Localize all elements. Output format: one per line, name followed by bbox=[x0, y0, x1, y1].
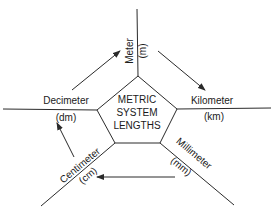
center-title-line-1: METRIC bbox=[118, 94, 156, 105]
spoke-centimeter bbox=[41, 143, 115, 206]
spoke-decimeter bbox=[3, 109, 97, 110]
arrow-meter-to-kilometer bbox=[158, 51, 205, 90]
arrow-centimeter-to-decimeter bbox=[57, 123, 74, 157]
label-meter-abbr: (m) bbox=[137, 44, 148, 59]
label-millimeter-abbr: (mm) bbox=[169, 155, 194, 178]
label-decimeter-abbr: (dm) bbox=[56, 112, 77, 123]
metric-system-diagram: METRIC SYSTEM LENGTHS Meter (m) Kilomete… bbox=[0, 0, 271, 214]
label-kilometer-abbr: (km) bbox=[204, 111, 224, 122]
label-decimeter: Decimeter bbox=[43, 95, 89, 106]
center-title-line-2: SYSTEM bbox=[116, 107, 157, 118]
spoke-kilometer bbox=[177, 108, 271, 109]
center-title-line-3: LENGTHS bbox=[113, 120, 161, 131]
arrow-decimeter-to-meter bbox=[72, 51, 120, 90]
label-kilometer: Kilometer bbox=[191, 95, 234, 106]
label-meter: Meter bbox=[124, 38, 135, 64]
spoke-meter bbox=[137, 9, 138, 76]
